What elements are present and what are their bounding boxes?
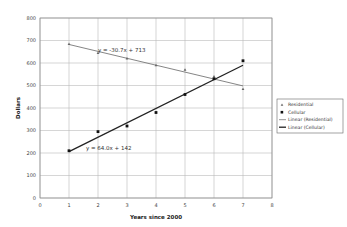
x-tick-label: 5	[183, 202, 186, 208]
legend-label: Linear (Cellular)	[288, 125, 325, 130]
data-point-residential	[213, 75, 216, 78]
data-point-residential	[242, 87, 245, 90]
y-tick-label: 500	[26, 82, 36, 88]
legend-marker-cellular	[281, 111, 284, 114]
data-point-cellular	[213, 77, 216, 80]
y-axis-title: Dollars	[15, 96, 21, 119]
legend-label: Residential	[288, 102, 313, 107]
data-point-cellular	[184, 93, 187, 96]
equation-cellular: y = 64.0x + 142	[86, 145, 131, 152]
y-tick-label: 0	[33, 195, 36, 201]
data-point-residential	[184, 68, 187, 71]
y-tick-label: 800	[26, 15, 36, 21]
y-tick-label: 200	[26, 150, 36, 156]
chart: 0100200300400500600700800012345678Years …	[0, 0, 347, 227]
y-tick-label: 400	[26, 105, 36, 111]
data-point-cellular	[68, 149, 71, 152]
y-tick-label: 700	[26, 37, 36, 43]
x-tick-label: 4	[154, 202, 157, 208]
y-tick-label: 300	[26, 127, 36, 133]
legend-label: Cellular	[288, 110, 306, 115]
data-point-residential	[68, 42, 71, 45]
x-axis-title: Years since 2000	[129, 214, 182, 220]
x-tick-label: 8	[270, 202, 273, 208]
x-tick-label: 6	[212, 202, 215, 208]
x-tick-label: 2	[96, 202, 99, 208]
x-tick-label: 7	[241, 202, 244, 208]
data-point-cellular	[126, 125, 129, 128]
equation-residential: y = -30.7x + 713	[98, 47, 146, 54]
data-point-cellular	[155, 111, 158, 114]
y-tick-label: 100	[26, 172, 36, 178]
x-tick-label: 0	[38, 202, 41, 208]
data-point-cellular	[242, 59, 245, 62]
y-tick-label: 600	[26, 60, 36, 66]
data-point-cellular	[97, 130, 100, 133]
legend-label: Linear (Residential)	[288, 117, 333, 122]
x-tick-label: 1	[67, 202, 70, 208]
x-tick-label: 3	[125, 202, 128, 208]
